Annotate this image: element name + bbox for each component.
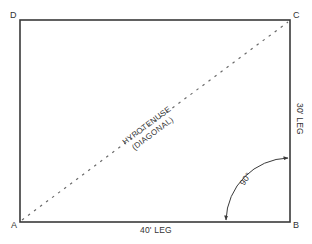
right-angle-diagram: D C A B 40' LEG 30' LEG HYPOTENUSE (DIAG… — [0, 0, 312, 244]
right-leg-label: 30' LEG — [295, 103, 305, 135]
right-angle-arc — [226, 158, 288, 220]
corner-label-d: D — [10, 10, 17, 20]
corner-label-a: A — [11, 220, 17, 230]
angle-label: 90° — [237, 170, 253, 187]
bottom-leg-label: 40' LEG — [140, 225, 172, 235]
corner-label-c: C — [293, 10, 300, 20]
corner-label-b: B — [293, 220, 299, 230]
